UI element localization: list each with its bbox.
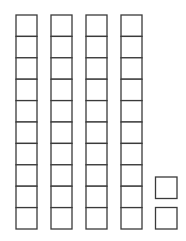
- rod-cell: [51, 58, 72, 79]
- rod-cell: [16, 79, 37, 100]
- rod-cell: [16, 36, 37, 57]
- rod-cell: [121, 58, 142, 79]
- rod-cell: [16, 122, 37, 143]
- rod-cell: [121, 36, 142, 57]
- rod-cell: [86, 208, 107, 229]
- rod-cell: [51, 79, 72, 100]
- rod-cell: [51, 122, 72, 143]
- rod-cell: [51, 36, 72, 57]
- rod-cell: [86, 58, 107, 79]
- ones-unit: [156, 208, 178, 230]
- rod-cell: [121, 186, 142, 207]
- rod-cell: [121, 165, 142, 186]
- rod-cell: [16, 15, 37, 36]
- rod-cell: [16, 101, 37, 122]
- rod-cell: [86, 15, 107, 36]
- rod-cell: [51, 208, 72, 229]
- rod-cell: [51, 165, 72, 186]
- tens-rod: [86, 15, 107, 229]
- tens-rod: [16, 15, 37, 229]
- rod-cell: [86, 143, 107, 164]
- rod-cell: [16, 58, 37, 79]
- ones-unit: [156, 177, 178, 199]
- rod-cell: [121, 143, 142, 164]
- rod-cell: [86, 165, 107, 186]
- rod-cell: [86, 36, 107, 57]
- rod-cell: [86, 122, 107, 143]
- rod-cell: [121, 15, 142, 36]
- rod-cell: [121, 122, 142, 143]
- rod-cell: [86, 79, 107, 100]
- rod-cell: [16, 143, 37, 164]
- rod-cell: [51, 101, 72, 122]
- tens-rod: [121, 15, 142, 229]
- rod-cell: [51, 186, 72, 207]
- rod-cell: [16, 165, 37, 186]
- rod-cell: [86, 186, 107, 207]
- rod-cell: [121, 101, 142, 122]
- rod-cell: [121, 79, 142, 100]
- rod-cell: [16, 186, 37, 207]
- base-ten-blocks-diagram: [0, 0, 186, 241]
- rod-cell: [86, 101, 107, 122]
- ones-units-group: [156, 177, 178, 229]
- rod-cell: [51, 143, 72, 164]
- tens-rod: [51, 15, 72, 229]
- rod-cell: [121, 208, 142, 229]
- tens-rods-group: [16, 15, 142, 229]
- rod-cell: [16, 208, 37, 229]
- rod-cell: [51, 15, 72, 36]
